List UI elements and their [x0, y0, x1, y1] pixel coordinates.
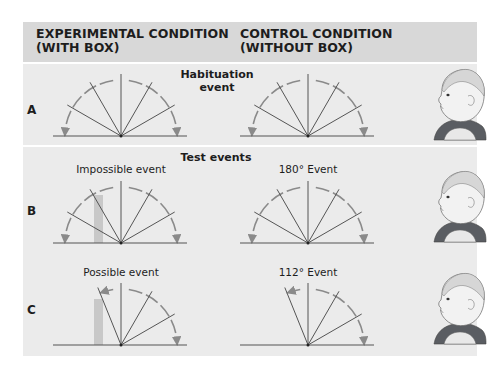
screen-position-line: [285, 288, 308, 346]
rotation-arc-right: [316, 290, 364, 342]
screen-position-line: [121, 82, 152, 136]
screen-position-line: [121, 189, 152, 243]
pivot-point: [307, 135, 310, 138]
drawbridge-diagram-a-left: [53, 74, 187, 138]
screen-position-line: [90, 82, 121, 136]
rotation-arc-left: [291, 290, 301, 292]
infant-eye: [446, 196, 449, 198]
drawbridge-diagram-a-right: [240, 74, 374, 138]
drawbridge-diagram-c-left: [53, 283, 187, 347]
pivot-point: [120, 135, 123, 138]
rotation-arc-left: [252, 188, 300, 240]
screen-position-line: [308, 291, 339, 345]
screen-position-line: [308, 212, 362, 243]
box-object: [94, 299, 103, 345]
rotation-arc-right: [316, 81, 364, 133]
screen-position-line: [67, 105, 121, 136]
screen-position-line: [277, 189, 308, 243]
screen-position-line: [121, 105, 175, 136]
infant-illustration: [434, 273, 486, 344]
rotation-arc-left: [65, 81, 113, 133]
screen-position-line: [121, 291, 152, 345]
rotation-arc-right: [129, 290, 177, 342]
screen-position-line: [121, 212, 175, 243]
pivot-point: [120, 344, 123, 347]
infant-illustration: [434, 171, 486, 242]
screen-position-line: [277, 82, 308, 136]
pivot-point: [307, 242, 310, 245]
screen-position-line: [254, 105, 308, 136]
pivot-point: [120, 242, 123, 245]
diagram-canvas: [0, 0, 493, 372]
screen-position-line: [308, 82, 339, 136]
rotation-arc-left: [252, 81, 300, 133]
screen-position-line: [308, 314, 362, 345]
screen-position-line: [308, 189, 339, 243]
rotation-arc-right: [129, 81, 177, 133]
screen-position-line: [121, 314, 175, 345]
pivot-point: [307, 344, 310, 347]
rotation-arc-right: [316, 188, 364, 240]
infant-illustration: [434, 69, 486, 140]
infant-eye: [446, 298, 449, 300]
screen-position-line: [308, 105, 362, 136]
drawbridge-diagram-c-right: [240, 283, 374, 347]
rotation-arc-right: [129, 188, 177, 240]
rotation-arc-left: [104, 290, 114, 292]
drawbridge-diagram-b-left: [53, 181, 187, 245]
infant-eye: [446, 94, 449, 96]
drawbridge-diagram-b-right: [240, 181, 374, 245]
screen-position-line: [254, 212, 308, 243]
box-object: [94, 195, 103, 243]
rotation-arc-left: [65, 188, 113, 240]
